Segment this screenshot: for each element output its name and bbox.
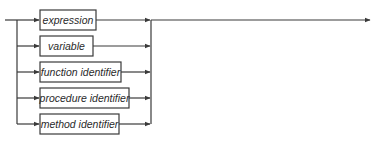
alternative-expression: expression	[17, 10, 150, 30]
alternative-function-identifier: function identifier	[17, 62, 150, 82]
label-method-identifier: method identifier	[41, 118, 119, 130]
alternative-variable: variable	[17, 36, 150, 56]
alternative-procedure-identifier: procedure identifier	[17, 88, 150, 108]
alternative-method-identifier: method identifier	[17, 114, 150, 134]
label-expression: expression	[43, 14, 94, 26]
label-function-identifier: function identifier	[41, 66, 121, 78]
syntax-diagram: expression variable function identifier …	[0, 0, 376, 145]
label-procedure-identifier: procedure identifier	[39, 92, 130, 104]
label-variable: variable	[48, 40, 85, 52]
